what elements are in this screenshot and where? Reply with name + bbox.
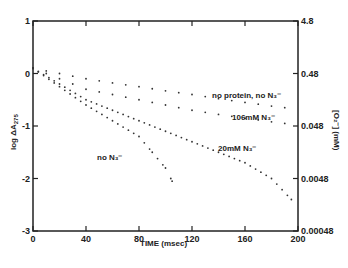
svg-text:0: 0 — [30, 234, 35, 244]
svg-text:0: 0 — [25, 69, 30, 79]
svg-text:0.48: 0.48 — [301, 69, 319, 79]
chart: 04080120160200 10-1-2-3 4.80.480.0480.00… — [0, 0, 348, 268]
x-axis-label: TIME (msec) — [140, 239, 187, 248]
label-106mm: 106mM N₃⁻ — [232, 113, 275, 122]
plot-frame — [33, 21, 298, 231]
label-20mm: 20mM N₃⁻ — [218, 144, 256, 153]
svg-text:0.00048: 0.00048 — [301, 226, 334, 236]
svg-text:160: 160 — [237, 234, 252, 244]
y-axis-label: log ΔA275 — [9, 114, 19, 150]
label-no-n3: no N₃⁻ — [97, 153, 122, 162]
y-axis-right-label: [O₂⁻] (mM) — [332, 110, 341, 151]
x-axis: 04080120160200 — [30, 21, 305, 244]
y-axis-right: 4.80.480.0480.00480.00048 — [293, 16, 334, 236]
svg-text:40: 40 — [81, 234, 91, 244]
svg-text:-1: -1 — [22, 121, 30, 131]
y-axis-left: 10-1-2-3 — [22, 16, 38, 236]
svg-text:1: 1 — [25, 16, 30, 26]
data-points — [32, 67, 292, 200]
svg-text:0.048: 0.048 — [301, 121, 324, 131]
svg-text:-2: -2 — [22, 174, 30, 184]
svg-text:0.0048: 0.0048 — [301, 174, 329, 184]
label-no-protein: no protein, no N₃⁻ — [212, 91, 281, 100]
svg-text:-3: -3 — [22, 226, 30, 236]
svg-text:4.8: 4.8 — [301, 16, 314, 26]
